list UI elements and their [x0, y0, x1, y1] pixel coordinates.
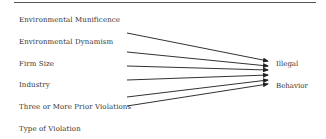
arrow-2	[127, 66, 268, 70]
arrow-3	[127, 75, 268, 80]
outcome-label-line1: Illegal	[276, 60, 298, 68]
arrows-diagram	[0, 0, 326, 139]
arrow-5	[127, 84, 268, 106]
arrow-4	[127, 80, 268, 97]
outcome-label-line2: Behavior	[276, 82, 308, 90]
arrow-1	[127, 52, 268, 66]
arrow-0	[127, 33, 268, 61]
